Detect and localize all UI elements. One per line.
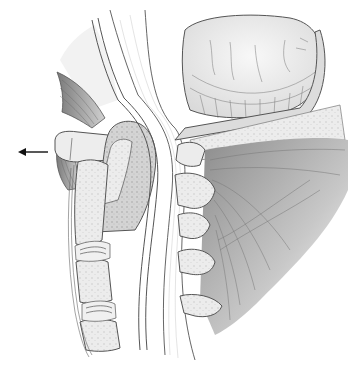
direction-arrow <box>18 148 48 156</box>
anterior-arch-of-atlas <box>55 131 110 162</box>
sagittal-craniocervical-illustration <box>0 0 348 371</box>
cerebellum <box>182 15 322 119</box>
posterior-arch-of-atlas <box>176 142 205 166</box>
